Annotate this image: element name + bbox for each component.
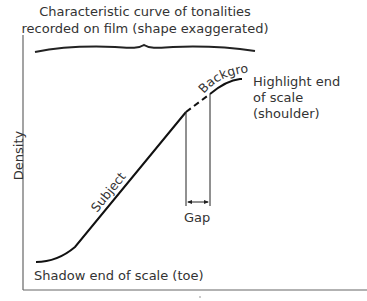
highlight-label-line1: Highlight end [253, 74, 340, 90]
highlight-label-line3: (shoulder) [253, 106, 320, 122]
arrowhead-right-icon [204, 200, 209, 204]
characteristic-curve-diagram: Subject Background [0, 0, 367, 301]
y-axis-label: Density [11, 126, 26, 186]
x-axis-tick [199, 296, 201, 298]
gap-label: Gap [184, 210, 210, 226]
highlight-label-line2: of scale [253, 90, 303, 106]
shadow-label: Shadow end of scale (toe) [34, 268, 204, 284]
curve-gap-dashed-segment [186, 94, 210, 112]
brace-icon [35, 45, 255, 52]
arrowhead-left-icon [187, 200, 192, 204]
